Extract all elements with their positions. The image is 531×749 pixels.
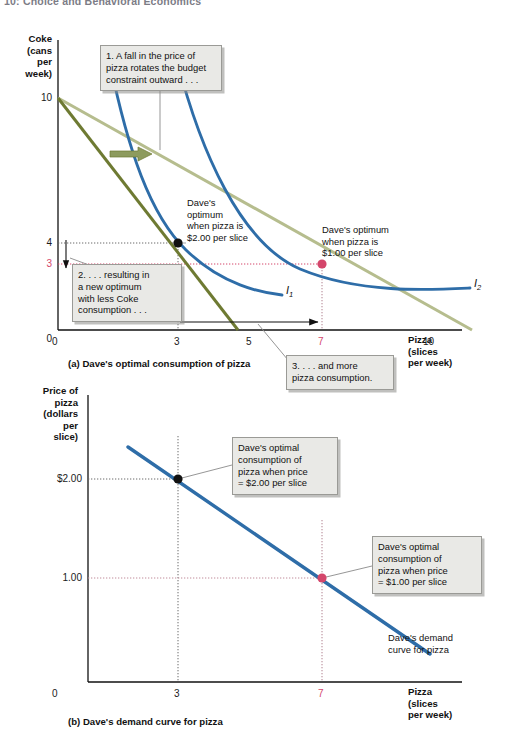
callout-demand-point-200: Dave's optimal consumption of pizza when… bbox=[232, 437, 338, 495]
panel-b-x-axis-title: Pizza (slices per week) bbox=[408, 686, 518, 721]
panel-b-ytick-100: 1.00 bbox=[24, 572, 82, 583]
panel-b-caption: (b) Dave's demand curve for pizza bbox=[68, 716, 223, 727]
panel-b-xtick-7: 7 bbox=[318, 688, 324, 699]
panel-b-y-axis-title: Price of pizza (dollars per slice) bbox=[12, 385, 78, 443]
panel-b-xtick-3: 3 bbox=[174, 688, 180, 699]
figure-container: 10: Choice and Behavioral Economics bbox=[0, 0, 531, 749]
panel-b-xtick-0: 0 bbox=[52, 688, 58, 699]
panel-b-ytick-200: $2.00 bbox=[24, 473, 82, 484]
demand-curve-label: Dave's demand curve for pizza bbox=[388, 632, 453, 655]
callout-demand-point-100: Dave's optimal consumption of pizza when… bbox=[372, 536, 482, 594]
